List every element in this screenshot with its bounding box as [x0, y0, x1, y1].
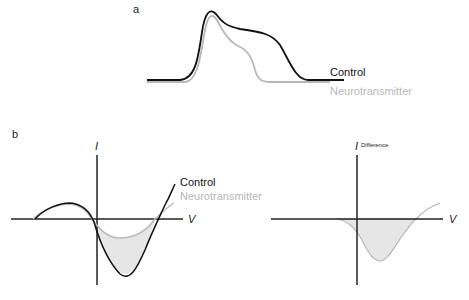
panel-b-left-y-label: I [95, 140, 98, 152]
figure: a Control Neurotransmitter b I V Control… [0, 0, 469, 300]
panel-b-left-difference-fill [92, 219, 155, 274]
panel-a-label: a [133, 3, 140, 15]
panel-b-left-legend-control: Control [180, 176, 215, 188]
panel-b-left-x-label: V [188, 213, 197, 225]
panel-b-label: b [12, 128, 18, 140]
panel-b-right-y-label: I [355, 140, 358, 152]
panel-a-legend-neurotransmitter: Neurotransmitter [330, 85, 412, 97]
panel-b-right-difference-curve [416, 203, 440, 219]
panel-a-neurotransmitter-trace [147, 16, 330, 82]
panel-b-left-control-curve [35, 184, 175, 276]
panel-a-control-trace [147, 11, 344, 80]
panel-b-left-legend-neurotransmitter: Neurotransmitter [180, 190, 262, 202]
panel-b-right-y-subscript: Difference [361, 142, 389, 148]
panel-a-legend-control: Control [330, 66, 365, 78]
panel-b-right-x-label: V [449, 213, 458, 225]
panel-b-right-difference-fill [337, 219, 416, 261]
